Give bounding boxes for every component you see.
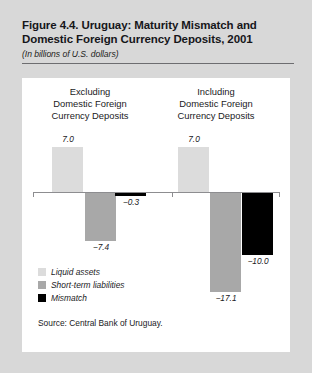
legend-label-mismatch: Mismatch: [51, 293, 87, 303]
legend-swatch-mismatch: [38, 294, 46, 302]
bar-liquid-assets-including: [178, 147, 209, 192]
chart-panel: Excluding Domestic Foreign Currency Depo…: [22, 78, 290, 352]
axis-tick-middle: [172, 192, 173, 197]
bar-mismatch-excluding: [115, 193, 146, 196]
legend-swatch-short-term-liabilities: [38, 281, 46, 289]
plot-area: 7.0 −7.4 −0.3 7.0 −17.1 −10.0: [22, 78, 290, 352]
legend-swatch-liquid-assets: [38, 268, 46, 276]
legend-label-liquid-assets: Liquid assets: [51, 267, 100, 277]
legend-item-liquid-assets: Liquid assets: [38, 266, 125, 278]
legend-item-short-term-liabilities: Short-term liabilities: [38, 279, 125, 291]
bar-label-mismatch-excluding: −0.3: [107, 197, 155, 207]
figure-subtitle: (In billions of U.S. dollars): [22, 49, 296, 59]
figure-container: Figure 4.4. Uruguay: Maturity Mismatch a…: [0, 0, 312, 373]
bar-liquid-assets-excluding: [52, 147, 83, 192]
bar-short-term-liabilities-including: [210, 193, 241, 292]
bar-label-short-term-liabilities-including: −17.1: [202, 293, 250, 303]
legend-label-short-term-liabilities: Short-term liabilities: [51, 280, 125, 290]
axis-tick-left: [33, 192, 34, 197]
axis-tick-right: [279, 192, 280, 197]
bar-label-mismatch-including: −10.0: [234, 256, 282, 266]
figure-source: Source: Central Bank of Uruguay.: [38, 318, 163, 328]
legend-item-mismatch: Mismatch: [38, 292, 125, 304]
bar-label-liquid-assets-excluding: 7.0: [44, 134, 92, 144]
bar-label-liquid-assets-including: 7.0: [170, 134, 218, 144]
title-divider: [22, 63, 294, 64]
chart-legend: Liquid assets Short-term liabilities Mis…: [38, 266, 125, 305]
bar-label-short-term-liabilities-excluding: −7.4: [77, 242, 125, 252]
figure-title: Figure 4.4. Uruguay: Maturity Mismatch a…: [22, 18, 294, 46]
bar-mismatch-including: [242, 193, 273, 255]
